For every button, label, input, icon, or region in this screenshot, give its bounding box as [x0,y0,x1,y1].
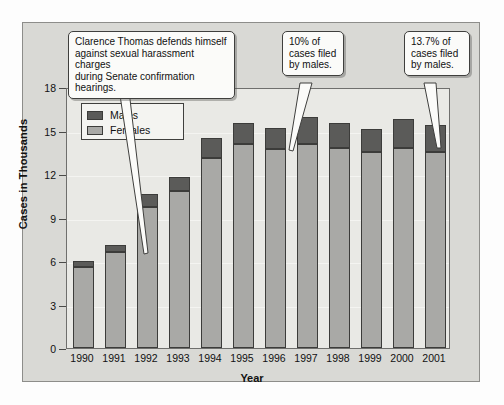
bar-segment-females-1993 [169,191,190,348]
y-axis-tick [59,88,66,89]
bar-2000 [393,119,414,348]
x-axis-tick-label-1996: 1996 [256,352,292,364]
bar-1993 [169,177,190,348]
legend: Males Females [81,103,184,140]
x-axis-title: Year [0,372,504,384]
y-axis-tick [59,175,66,176]
x-axis-tick-label-1990: 1990 [64,352,100,364]
legend-swatch-females [87,126,103,135]
bar-segment-females-1997 [297,144,318,348]
bar-1991 [105,245,126,348]
bar-1997 [297,117,318,348]
x-axis-tick-label-1997: 1997 [288,352,324,364]
bar-segment-females-1996 [265,149,286,348]
bar-segment-males-2000 [393,119,414,148]
x-axis-tick-label-1995: 1995 [224,352,260,364]
y-axis-tick-label: 0 [14,344,56,354]
x-axis-tick-label-1998: 1998 [320,352,356,364]
bar-segment-females-1995 [233,144,254,348]
callout-2001-males-text: 13.7% of cases filed by males. [411,36,463,71]
callout-1996-males-text: 10% of cases filed by males. [289,36,337,71]
bar-segment-males-1991 [105,245,126,252]
bar-1994 [201,138,222,348]
callout-1996-males: 10% of cases filed by males. [282,31,344,76]
bar-segment-males-2001 [425,125,446,153]
bar-segment-females-1991 [105,252,126,348]
x-axis-tick-label-2000: 2000 [384,352,420,364]
bar-1996 [265,128,286,348]
bar-segment-males-1995 [233,123,254,143]
x-axis-tick-label-1994: 1994 [192,352,228,364]
y-axis-tick-label: 3 [14,301,56,311]
bar-1999 [361,129,382,348]
y-axis-tick [59,262,66,263]
x-axis-tick-label-1993: 1993 [160,352,196,364]
y-axis-tick [59,349,66,350]
y-axis-tick [59,306,66,307]
bar-1992 [137,194,158,348]
x-axis-tick-label-1991: 1991 [96,352,132,364]
bar-segment-males-1999 [361,129,382,152]
bar-segment-males-1997 [297,117,318,143]
y-axis-tick [59,219,66,220]
legend-item-females: Females [87,123,178,138]
y-axis-tick [59,132,66,133]
bar-segment-males-1998 [329,123,350,148]
bar-segment-males-1990 [73,261,94,267]
bar-segment-females-2001 [425,152,446,348]
chart-figure: 0369121518 Cases in Thousands 1990199119… [0,0,504,405]
y-axis-title: Cases in Thousands [17,89,29,259]
bar-1990 [73,261,94,348]
legend-label-females: Females [110,125,150,136]
x-axis-tick-label-2001: 2001 [416,352,452,364]
x-axis-tick-label-1999: 1999 [352,352,388,364]
bar-segment-females-1994 [201,158,222,348]
bar-segment-males-1994 [201,138,222,158]
bar-segment-females-1990 [73,267,94,348]
bar-2001 [425,125,446,348]
bar-segment-females-1998 [329,148,350,348]
bar-segment-females-1992 [137,207,158,348]
legend-item-males: Males [87,108,178,123]
callout-clarence-thomas-text: Clarence Thomas defends himself against … [75,36,228,94]
callout-clarence-thomas: Clarence Thomas defends himself against … [68,31,235,99]
bar-segment-males-1996 [265,128,286,150]
bar-segment-females-1999 [361,152,382,348]
legend-swatch-males [87,111,103,120]
x-axis-tick-label-1992: 1992 [128,352,164,364]
callout-2001-males: 13.7% of cases filed by males. [404,31,470,76]
bar-segment-males-1993 [169,177,190,192]
legend-label-males: Males [110,110,138,121]
bar-1998 [329,123,350,348]
bar-segment-males-1992 [137,194,158,207]
bar-1995 [233,123,254,348]
bar-segment-females-2000 [393,148,414,348]
